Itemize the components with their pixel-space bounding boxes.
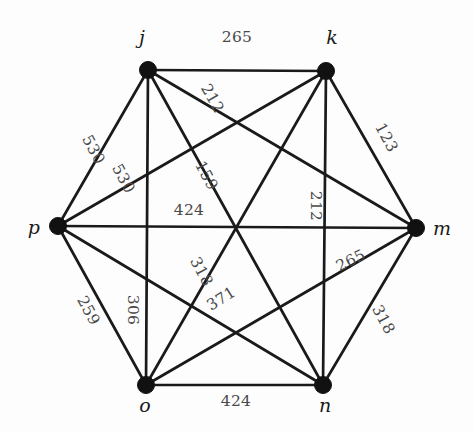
graph-vertex-j (140, 62, 157, 79)
vertex-label-p: p (28, 216, 40, 238)
graph-edge-n-m (323, 228, 416, 385)
edge-weight-p-n: 318 (186, 254, 216, 289)
edge-weight-p-k: 530 (108, 161, 138, 196)
edge-weight-k-m: 123 (371, 120, 401, 155)
vertex-label-k: k (326, 26, 338, 48)
edge-weight-p-m: 424 (174, 201, 205, 219)
graph-vertex-p (50, 218, 67, 235)
graph-canvas: jkmnop 265212530530159424212123265318259… (0, 0, 474, 431)
edges-layer (58, 70, 416, 385)
graph-edge-k-m (326, 71, 416, 228)
graph-figure: jkmnop 265212530530159424212123265318259… (0, 0, 474, 431)
graph-vertex-o (138, 377, 155, 394)
vertex-label-j: j (135, 26, 145, 48)
edge-weight-j-o: 306 (124, 295, 142, 326)
graph-vertex-k (318, 63, 335, 80)
vertex-label-o: o (139, 394, 150, 416)
edge-weight-o-k: 371 (204, 283, 239, 314)
vertex-label-m: m (433, 217, 451, 239)
edge-weight-k-n: 212 (307, 191, 325, 222)
vertex-label-n: n (319, 394, 331, 416)
graph-edge-j-k (148, 70, 326, 71)
edge-weight-o-n: 424 (221, 392, 252, 410)
graph-vertex-m (408, 220, 425, 237)
edge-weights-layer: 2652125305301594242121232653182593063183… (73, 28, 401, 410)
graph-edge-j-o (146, 70, 148, 385)
edge-weight-j-k: 265 (222, 28, 253, 46)
edge-weight-j-m: 212 (197, 81, 228, 116)
edge-weight-n-m: 318 (368, 302, 398, 337)
graph-edge-k-n (323, 71, 326, 385)
edge-weight-o-m: 265 (333, 246, 368, 276)
edge-weight-j-p: 530 (78, 132, 108, 167)
edge-weight-j-n: 159 (191, 158, 221, 193)
graph-vertex-n (315, 377, 332, 394)
